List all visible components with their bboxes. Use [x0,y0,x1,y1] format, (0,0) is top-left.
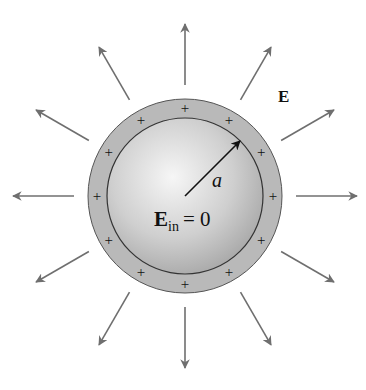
inner-field-value: = 0 [183,207,211,231]
positive-charge: + [105,144,113,160]
positive-charge: + [93,188,101,204]
positive-charge: + [181,276,189,292]
field-arrow [241,292,272,345]
positive-charge: + [137,112,145,128]
field-label: E [278,88,289,105]
positive-charge: + [225,264,233,280]
positive-charge: + [257,232,265,248]
inner-field-symbol: E [154,207,168,231]
charged-sphere-diagram: ++++++++++++ [0,0,366,390]
field-arrow [281,110,334,141]
inner-field-subscript: in [168,219,179,234]
field-arrow [36,252,89,283]
field-arrow [99,292,130,345]
field-arrow [36,110,89,141]
positive-charge: + [225,112,233,128]
field-arrow [281,252,334,283]
field-arrow [241,47,272,100]
positive-charge: + [181,100,189,116]
positive-charge: + [137,264,145,280]
field-arrow [99,47,130,100]
positive-charge: + [269,188,277,204]
positive-charge: + [257,144,265,160]
positive-charge: + [105,232,113,248]
radius-label: a [212,170,222,190]
inner-field-label: Ein= 0 [154,209,211,230]
